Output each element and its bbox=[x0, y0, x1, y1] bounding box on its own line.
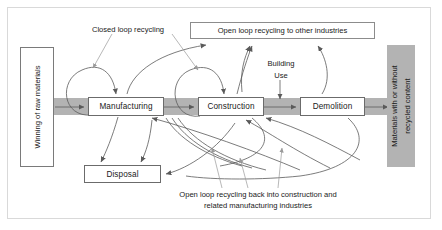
stage-construction-label: Construction bbox=[207, 102, 254, 111]
winning-of-raw-materials-label: Winning of raw materials bbox=[33, 65, 42, 148]
open-loop-return-arrows bbox=[152, 118, 360, 179]
materials-recycled-content-line2: recycled content bbox=[403, 78, 412, 133]
bottom-caption-line2: related manufacturing industries bbox=[204, 201, 312, 210]
stage-construction[interactable]: Construction bbox=[198, 97, 264, 116]
annotation-closed-loop-recycling-label: Closed loop recycling bbox=[92, 25, 164, 34]
annotation-building-label: Building bbox=[267, 59, 294, 68]
bottom-caption-line1: Open loop recycling back into constructi… bbox=[179, 190, 336, 199]
bottom-caption: Open loop recycling back into constructi… bbox=[143, 190, 373, 211]
materials-recycled-content-label: Materials with or without recycled conte… bbox=[388, 65, 414, 146]
node-disposal-label: Disposal bbox=[106, 170, 138, 179]
stage-demolition-label: Demolition bbox=[313, 102, 353, 111]
annotation-use-label: Use bbox=[274, 71, 288, 80]
open-loop-other-industries-box[interactable]: Open loop recycling to other industries bbox=[190, 22, 375, 39]
node-disposal[interactable]: Disposal bbox=[84, 165, 161, 183]
stage-manufacturing[interactable]: Manufacturing bbox=[88, 97, 164, 116]
materials-recycled-content-line1: Materials with or without bbox=[390, 65, 399, 146]
stage-demolition[interactable]: Demolition bbox=[300, 97, 365, 116]
diagram-canvas: Winning of raw materials Materials with … bbox=[0, 0, 442, 230]
annotation-building-use: Building Use bbox=[258, 58, 304, 82]
winning-of-raw-materials-panel: Winning of raw materials bbox=[20, 47, 54, 167]
annotation-closed-loop-recycling: Closed loop recycling bbox=[76, 24, 180, 36]
stage-manufacturing-label: Manufacturing bbox=[99, 102, 152, 111]
open-loop-other-industries-label: Open loop recycling to other industries bbox=[218, 26, 348, 35]
materials-recycled-content-panel: Materials with or without recycled conte… bbox=[387, 45, 415, 167]
